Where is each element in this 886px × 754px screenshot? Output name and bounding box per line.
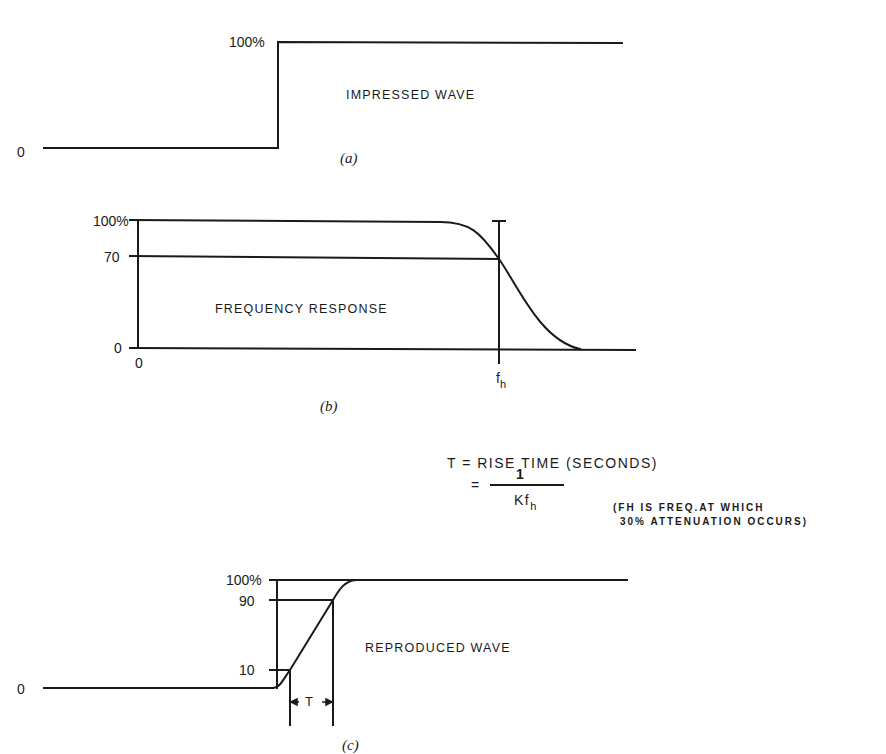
rise-time-definition: T = RISE TIME (SECONDS): [447, 455, 658, 471]
label-100-b: 100%: [93, 213, 129, 229]
reproduced-wave-curve: [273, 580, 627, 688]
label-10-c: 10: [239, 662, 255, 678]
label-0-x-b: 0: [135, 355, 143, 371]
impressed-wave-line: [44, 42, 622, 148]
impressed-wave-title: IMPRESSED WAVE: [346, 87, 475, 103]
reproduced-wave-title: REPRODUCED WAVE: [365, 640, 511, 656]
label-90-c: 90: [239, 593, 255, 609]
frequency-response-title: FREQUENCY RESPONSE: [215, 301, 388, 317]
caption-a: (a): [340, 150, 358, 167]
fh-note-line2: 30% ATTENUATION OCCURS): [620, 515, 808, 529]
line-70-b: [130, 256, 499, 259]
formula-denominator: Kfh: [514, 492, 538, 508]
fh-note-line1: (FH IS FREQ.AT WHICH: [613, 501, 764, 515]
formula-numerator: 1: [516, 466, 525, 482]
label-100-a: 100%: [229, 34, 265, 50]
label-70-b: 70: [104, 249, 120, 265]
t-label: T: [305, 694, 313, 710]
caption-b: (b): [320, 398, 338, 415]
t-arrow-left-icon: [291, 699, 297, 705]
frequency-response-curve: [130, 220, 580, 349]
formula-equals: =: [471, 477, 481, 493]
label-0-c: 0: [17, 681, 25, 697]
label-0-y-b: 0: [114, 340, 122, 356]
x-axis-b: [130, 348, 635, 350]
t-arrow-right-icon: [326, 699, 332, 705]
caption-c: (c): [342, 737, 359, 754]
fh-label: fh: [496, 370, 506, 387]
label-0-a: 0: [17, 144, 25, 160]
label-100-c: 100%: [226, 572, 262, 588]
